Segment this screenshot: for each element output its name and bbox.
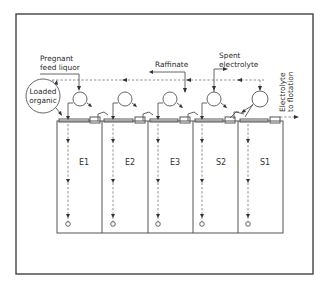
stage-label-E2: E2 xyxy=(125,158,135,167)
mixer-E2 xyxy=(111,92,137,120)
pregnant-feed-label-2: feed liquor xyxy=(40,63,81,72)
interstage-pipes xyxy=(98,112,244,121)
stage-label-S1: S1 xyxy=(260,158,270,167)
stage-label-E3: E3 xyxy=(170,158,180,167)
spent-electrolyte-label-1: Spent xyxy=(219,51,241,60)
stage-label-E1: E1 xyxy=(79,158,89,167)
raffinate-label: Raffinate xyxy=(155,60,189,69)
mixer-S2 xyxy=(200,92,227,120)
raffinate-pipe xyxy=(149,70,187,93)
outer-frame xyxy=(16,14,313,274)
electrolyte-out-label-2: to flotation xyxy=(286,71,295,112)
main-flow-line xyxy=(52,78,264,85)
flowsheet-diagram: Loaded organic xyxy=(0,0,328,288)
electrolyte-out-pipe xyxy=(280,115,299,119)
mixer-S1 xyxy=(234,91,268,119)
pregnant-feed-label-1: Pregnant xyxy=(40,54,73,63)
loaded-organic-label-2: organic xyxy=(29,96,56,105)
loaded-organic-label-1: Loaded xyxy=(30,87,57,96)
settler-internal-flows xyxy=(66,124,251,226)
spent-electrolyte-pipe xyxy=(212,67,262,92)
mixer-E3 xyxy=(156,92,183,120)
mixer-E1 xyxy=(66,92,92,120)
spent-electrolyte-label-2: electrolyte xyxy=(219,60,259,69)
stage-label-S2: S2 xyxy=(216,158,226,167)
